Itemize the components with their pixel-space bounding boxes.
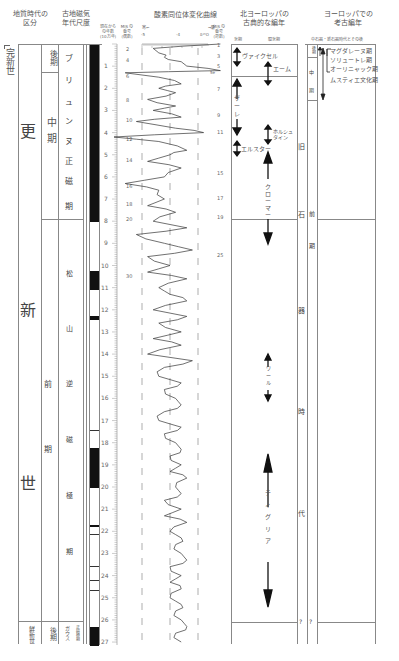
paleolithic-char-3: 時 — [298, 406, 305, 416]
late-pleistocene-label: 後期 — [43, 50, 57, 66]
stage-waal-2: ル — [266, 378, 271, 385]
pliocene-late-label: 後期 — [43, 627, 57, 641]
stage-eem: エーム — [273, 64, 291, 73]
age-tick-label: 7 — [104, 195, 108, 202]
age-tick-label: 26 — [101, 616, 109, 623]
brunhes-char-8: 期 — [65, 200, 73, 211]
brunhes-char-4: ヌ — [65, 135, 73, 146]
early-pleistocene-char-2: 期 — [44, 443, 52, 454]
stage-elster: エルスター — [241, 144, 271, 153]
stage-waal-1: ー — [266, 371, 271, 378]
early-pleistocene-char-1: 前 — [44, 378, 52, 389]
mis-label: 11 — [217, 129, 223, 135]
brunhes-char-0: ブ — [65, 52, 73, 63]
age-tick-label: 11 — [101, 284, 109, 291]
middle-pleistocene-label: 中期 — [43, 117, 57, 149]
age-tick-label: 25 — [101, 594, 109, 601]
paleolithic-char-2: 器 — [298, 305, 305, 315]
gauss-type-label: 正磁極期 — [70, 625, 80, 641]
interglacial-label: 間氷期 — [268, 37, 280, 42]
brunhes-char-3: ン — [65, 115, 73, 126]
mesolithic-note: 中石器・新石器時代とその後 — [311, 37, 363, 42]
mis-label: 15 — [217, 170, 223, 176]
axis-tick-minus5: -5 — [141, 32, 145, 37]
culture-mousterian: ムスティエ文化期 — [330, 75, 378, 84]
paleolithic-char-0: 旧 — [298, 141, 305, 151]
pleistocene-char-3: 世 — [20, 470, 36, 494]
oxygen-isotope-curve — [122, 44, 222, 646]
matuyama-char-1: 山 — [66, 323, 73, 333]
cold-label: 寒← — [142, 25, 149, 30]
age-tick-label: 2 — [104, 84, 108, 91]
matuyama-char-3: 磁 — [66, 434, 73, 444]
age-tick-label: 20 — [101, 483, 109, 490]
middle-paleolithic-char-1: 期 — [309, 86, 314, 93]
stage-weichsel: ヴァイクセル — [242, 51, 278, 60]
mis-label: 19 — [217, 214, 223, 220]
gauss-label: ガウス — [60, 626, 70, 641]
age-tick-label: 15 — [101, 372, 109, 379]
mis-label: 25 — [217, 252, 223, 258]
stage-tiglian-1: ィ — [265, 500, 271, 509]
age-tick-label: 17 — [101, 417, 109, 424]
stage-tiglian-4: ア — [265, 536, 271, 545]
header-paleomag: 古地磁気 年代尺度 — [58, 10, 94, 28]
early-paleolithic-char-0: 前 — [309, 209, 315, 218]
stage-saale-2: レ — [234, 109, 240, 118]
age-tick-label: 10 — [101, 262, 109, 269]
stage-cromer-4: ー — [265, 210, 271, 219]
stage-tiglian-0: テ — [265, 488, 271, 497]
matuyama-char-2: 逆 — [66, 378, 73, 388]
mis-label: 9 — [217, 112, 220, 118]
brunhes-char-2: ュ — [65, 96, 73, 107]
mis-label: 3 — [217, 53, 220, 59]
stage-holstein: ホルシュ タイン — [273, 128, 293, 140]
axis-tick-delta: δ¹⁸O — [200, 32, 209, 37]
header-mis-even: MIS の 番号 (偶数) — [120, 24, 134, 39]
mis-5e-label: 5e — [210, 70, 215, 75]
pleistocene-char-2: 新 — [20, 297, 36, 321]
age-tick-label: 8 — [104, 217, 108, 224]
mis-label: 1 — [217, 42, 220, 48]
culture-aurignacian: オーリニャック期 — [330, 64, 378, 73]
brunhes-char-6: 磁 — [65, 175, 73, 186]
pleistocene-char-1: 更 — [20, 118, 36, 142]
culture-solutrean: ソリュートレ期 — [330, 55, 372, 64]
header-north-europe: 北ヨーロッパの 古典的な編年 — [234, 10, 294, 28]
matuyama-char-5: 期 — [66, 546, 73, 556]
oxygen-curve-title: 酸素同位体変化曲線 — [140, 10, 230, 20]
header-age-axis: 現在から の年数 (10万年) — [97, 24, 119, 39]
holocene-label: 完新世 — [1, 48, 15, 75]
glacial-label: 氷期 — [234, 37, 242, 42]
culture-magdalenian: マグダレーヌ期 — [330, 46, 372, 55]
age-tick-label: 19 — [101, 461, 109, 468]
question-mark-1: ? — [299, 618, 302, 625]
holocene-bracket-icon — [4, 45, 10, 49]
stage-waal-0: ワ — [266, 364, 271, 371]
late-paleolithic-label: 後期 — [308, 46, 316, 54]
mis-label: 7 — [217, 86, 220, 92]
paleolithic-char-4: 代 — [298, 508, 305, 518]
mis-label: 5 — [217, 63, 220, 69]
age-tick-label: 24 — [101, 572, 109, 579]
mis-label: 17 — [217, 195, 223, 201]
pliocene-label: 鮮新世 — [21, 626, 35, 644]
stage-tiglian-2: グ — [265, 512, 271, 521]
axis-tick-minus4: -4 — [176, 32, 180, 37]
middle-paleolithic-char-0: 中 — [309, 68, 314, 75]
age-tick-label: 16 — [101, 394, 109, 401]
age-tick-label: 5 — [104, 151, 108, 158]
stage-tiglian-3: リ — [265, 524, 271, 533]
age-tick-label: 4 — [104, 129, 108, 136]
brunhes-char-1: リ — [65, 74, 73, 85]
matuyama-char-0: 松 — [66, 268, 73, 278]
age-tick-label: 27 — [101, 638, 109, 645]
age-tick-label: 13 — [101, 328, 109, 335]
header-europe-arch: ヨーロッパでの 考古編年 — [318, 10, 378, 28]
age-tick-label: 9 — [104, 239, 108, 246]
early-paleolithic-char-1: 期 — [309, 241, 315, 250]
age-tick-label: 23 — [101, 549, 109, 556]
age-tick-label: 12 — [101, 306, 109, 313]
header-geologic-time: 地質時代の 区分 — [4, 10, 56, 28]
age-tick-label: 18 — [101, 439, 109, 446]
